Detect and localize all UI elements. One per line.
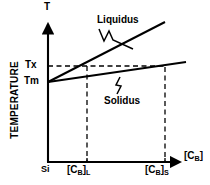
x-tick-label-cbl: [CB]L: [67, 165, 91, 175]
x-axis-symbol-suffix: ]: [200, 150, 203, 161]
plot-canvas: [0, 0, 210, 185]
y-tick-label-tx: Tx: [25, 60, 37, 70]
x-tick-label-cbl-prefix: [C: [67, 164, 78, 175]
x-tick-label-cbs: [CB]S: [145, 165, 169, 175]
y-axis-title-label: TEMPERATURE: [10, 52, 20, 148]
x-tick-label-si: Si: [41, 165, 50, 174]
x-axis-symbol-prefix: [C: [184, 150, 195, 161]
x-axis-symbol-sub: B: [195, 154, 200, 163]
x-tick-label-cbs-postsub: S: [164, 168, 169, 177]
phase-diagram-figure: T TEMPERATURE Tx Tm Liquidus Solidus Si …: [0, 0, 210, 185]
solidus-leader-line: [116, 77, 121, 94]
x-tick-label-cbl-postsub: L: [86, 168, 90, 177]
liquidus-leader-line: [99, 29, 133, 49]
x-tick-label-cbs-sub: B: [156, 168, 161, 177]
x-tick-label-cbs-prefix: [C: [145, 164, 156, 175]
x-axis-symbol-label: [CB]: [184, 151, 203, 161]
y-axis-symbol-label: T: [44, 2, 50, 12]
solidus-label: Solidus: [104, 96, 140, 106]
liquidus-label: Liquidus: [97, 15, 139, 25]
x-tick-label-cbl-sub: B: [78, 168, 83, 177]
y-tick-label-tm: Tm: [24, 76, 39, 86]
